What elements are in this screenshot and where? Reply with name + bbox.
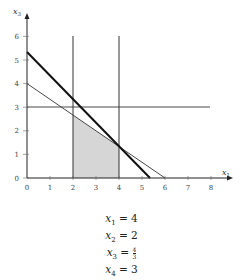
svg-text:3: 3 [94,184,98,192]
solution-values: x1 = 4 x2 = 2 x3 = 43 x4 = 3 [0,212,243,280]
svg-text:7: 7 [186,184,190,192]
solution-x1: x1 = 4 [0,212,243,229]
svg-text:6: 6 [163,184,168,192]
svg-text:5: 5 [15,57,19,65]
y-axis-label: x3 [13,7,22,17]
svg-text:2: 2 [15,127,19,135]
svg-text:0: 0 [25,184,29,192]
y-ticks [23,36,29,178]
svg-text:3: 3 [15,104,19,112]
solution-x3: x3 = 43 [0,246,243,263]
svg-text:2: 2 [71,184,75,192]
svg-text:4: 4 [117,184,122,192]
x-tick-labels: 0 1 2 3 4 5 6 7 8 [25,184,213,192]
feasible-region [73,115,119,178]
svg-text:5: 5 [140,184,144,192]
y-tick-labels: 0 1 2 3 4 5 6 [15,33,20,183]
solution-x4: x4 = 3 [0,263,243,280]
svg-text:1: 1 [15,151,19,159]
y-axis-arrow-icon [25,13,30,19]
lp-diagram: 0 1 2 3 4 5 6 7 8 0 1 2 3 4 5 6 x1 x3 [0,0,243,210]
svg-text:4: 4 [15,80,20,88]
x-axis-label: x1 [222,168,230,178]
svg-text:1: 1 [48,184,52,192]
fraction: 43 [133,247,137,260]
solution-x2: x2 = 2 [0,229,243,246]
svg-text:6: 6 [15,33,20,41]
svg-text:8: 8 [209,184,213,192]
svg-text:0: 0 [15,175,19,183]
